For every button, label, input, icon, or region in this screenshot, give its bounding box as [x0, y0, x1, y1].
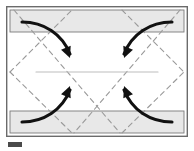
bottom-flap	[10, 111, 184, 133]
top-flap	[10, 10, 184, 32]
figure-container: Fig.	[0, 0, 194, 151]
paper-folding-diagram	[0, 0, 194, 151]
figure-caption-mark: Fig.	[8, 142, 22, 147]
